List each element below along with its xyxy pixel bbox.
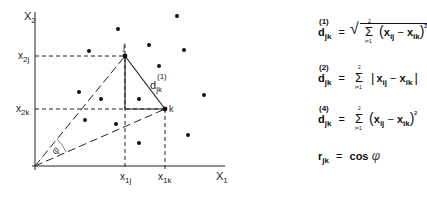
- y-axis-label: X2: [24, 10, 36, 25]
- formula-manhattan: (2)djk = 2Σi=1 |xij − xik|: [318, 71, 420, 84]
- point-j-label: j: [122, 42, 125, 52]
- point-k-label: k: [169, 104, 174, 114]
- vector-k: [35, 109, 165, 166]
- edge-d-sup: (1): [157, 72, 167, 81]
- tick-x2k: x2k: [16, 103, 30, 117]
- formula-euclidean: (1)djk = 2Σi=1 (xij − xik)2: [318, 23, 427, 38]
- sqrt-symbol: 2Σi=1 (xij − xik)2: [360, 23, 427, 38]
- distance-edge: [125, 56, 165, 109]
- point-k: [163, 107, 168, 112]
- formula-correlation: rjk = cos φ: [318, 150, 380, 162]
- distance-diagram: X2 X1 x2j x2k x1j x1k j k (1) djk φ: [0, 0, 235, 197]
- scatter-points: [77, 14, 206, 145]
- formula-squared: (4)djk = 2Σi=1 (xij − xik)2: [318, 111, 417, 125]
- tick-x1k: x1k: [158, 171, 172, 185]
- tick-x2j: x2j: [18, 50, 29, 64]
- angle-phi-label: φ: [49, 144, 62, 156]
- x-axis-label: X1: [216, 170, 228, 185]
- phi-symbol: φ: [372, 149, 380, 163]
- point-j: [123, 54, 128, 59]
- tick-x1j: x1j: [120, 171, 131, 185]
